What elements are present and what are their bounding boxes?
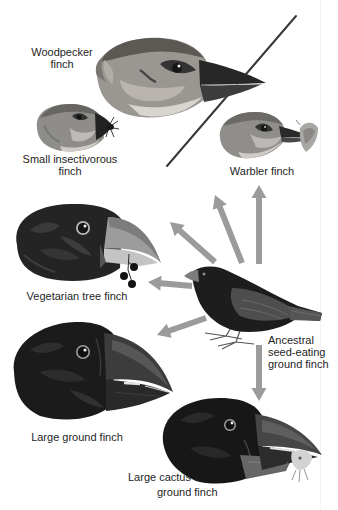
- label-line: finch: [10, 166, 130, 178]
- small-insectivorous-finch-illustration: [37, 104, 119, 151]
- arrow-to-vegetarian-icon: [148, 276, 192, 291]
- label-line: Small insectivorous: [10, 154, 130, 166]
- label-woodpecker-finch: Woodpecker finch: [24, 47, 100, 70]
- label-line: Ancestral: [268, 334, 329, 346]
- large-ground-finch-illustration: [14, 322, 173, 420]
- warbler-finch-illustration: [220, 112, 318, 158]
- arrow-to-small-insectivorous-icon: [170, 222, 217, 264]
- insect-icon: [106, 117, 119, 137]
- label-line: ground finch: [157, 487, 218, 499]
- label-line: Woodpecker: [24, 47, 100, 59]
- vegetarian-tree-finch-illustration: [16, 204, 161, 288]
- label-large-cactus-line-2: ground finch: [157, 487, 218, 499]
- label-line: Large cactus: [128, 472, 191, 484]
- label-line: Vegetarian tree finch: [7, 291, 147, 303]
- arrow-to-large-ground-icon: [157, 315, 207, 338]
- label-line: ground finch: [268, 358, 329, 370]
- label-line: Large ground finch: [7, 432, 147, 444]
- label-large-cactus-line-1: Large cactus: [128, 472, 191, 484]
- arrow-up-to-warbler-icon: [252, 185, 267, 264]
- finch-radiation-diagram: Woodpecker finch Small insectivorous fin…: [0, 0, 338, 510]
- label-line: finch: [24, 59, 100, 71]
- label-line: seed-eating: [268, 346, 329, 358]
- label-line: Warbler finch: [212, 166, 312, 178]
- arrow-to-woodpecker-icon: [213, 195, 245, 264]
- label-large-ground-finch: Large ground finch: [7, 432, 147, 444]
- label-small-insectivorous-finch: Small insectivorous finch: [10, 154, 130, 177]
- label-warbler-finch: Warbler finch: [212, 166, 312, 178]
- label-ancestral-ground-finch: Ancestral seed-eating ground finch: [268, 334, 329, 370]
- label-vegetarian-tree-finch: Vegetarian tree finch: [7, 291, 147, 303]
- arrow-down-to-large-cactus-icon: [252, 345, 267, 401]
